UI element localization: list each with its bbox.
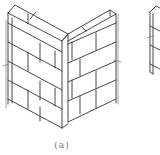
left-wall [3,5,68,128]
partial-second-figure [147,6,160,74]
brick-corner-diagram [0,0,160,155]
figure-caption: (a) [50,140,74,150]
corner-edge [62,34,68,128]
right-wall [62,10,121,122]
